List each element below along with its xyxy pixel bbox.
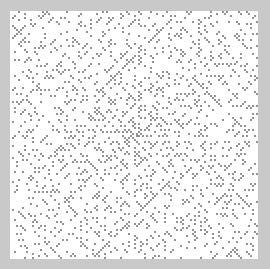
prime-spiral-plot: [10, 11, 258, 259]
figure-frame: [0, 0, 270, 269]
spiral-panel: [10, 11, 258, 259]
